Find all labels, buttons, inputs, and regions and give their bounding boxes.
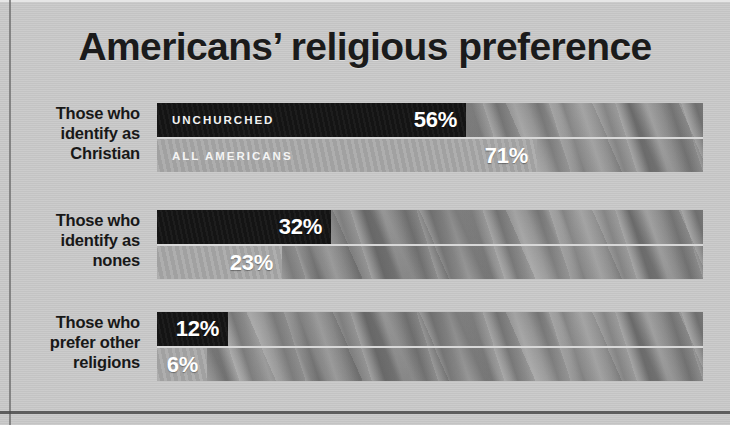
bar-unchurched-nones[interactable]: 32% [157,210,331,244]
series-label-all-americans: ALL AMERICANS [172,150,293,162]
group-label-line-3: Christian [18,143,140,163]
value-all-americans-christian: 71% [485,143,528,169]
track-texture [157,312,703,346]
series-label-unchurched: UNCHURCHED [172,114,274,126]
group-label-christian: Those who identify as Christian [18,103,140,163]
group-label-other-religions: Those who prefer other religions [18,312,140,372]
bar-unchurched-other[interactable]: 12% [157,312,228,346]
group-label-line-3: religions [18,352,140,372]
bar-all-americans-nones[interactable]: 23% [157,246,282,279]
infographic-root: Americans’ religious preference Those wh… [0,0,730,425]
value-unchurched-christian: 56% [414,107,457,133]
bar-all-americans-other[interactable]: 6% [157,348,207,381]
value-all-americans-nones: 23% [230,250,273,276]
group-label-nones: Those who identify as nones [18,210,140,270]
row-separator [157,346,703,348]
group-label-line-1: Those who [18,312,140,332]
group-label-line-2: prefer other [18,332,140,352]
track-texture [157,348,703,381]
row-separator [157,244,703,246]
value-unchurched-other: 12% [176,316,219,342]
group-label-line-3: nones [18,250,140,270]
bar-track-unchurched-other [157,312,703,346]
value-all-americans-other: 6% [167,352,198,378]
bar-unchurched-christian[interactable]: UNCHURCHED 56% [157,103,466,137]
group-label-line-1: Those who [18,103,140,123]
top-border-line [0,0,730,2]
bar-all-americans-christian[interactable]: ALL AMERICANS 71% [157,139,537,172]
bar-track-all-americans-other [157,348,703,381]
group-label-line-2: identify as [18,123,140,143]
value-unchurched-nones: 32% [279,214,322,240]
group-label-line-1: Those who [18,210,140,230]
group-label-line-2: identify as [18,230,140,250]
row-separator [157,137,703,139]
page-title: Americans’ religious preference [0,25,730,69]
bottom-border-line [0,411,730,414]
